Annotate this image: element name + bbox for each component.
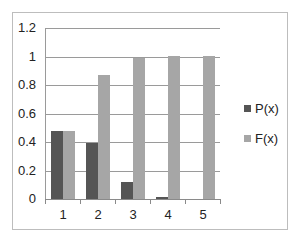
y-tick-label: 0.2: [6, 164, 36, 178]
x-tick-mark: [115, 199, 116, 204]
x-tick-mark: [150, 199, 151, 204]
bar-px-1: [51, 131, 63, 199]
bar-fx-1: [63, 131, 75, 199]
legend-label-fx: F(x): [255, 131, 278, 146]
x-tick-label: 4: [158, 207, 178, 222]
y-tick-label: 0.8: [6, 78, 36, 92]
legend-swatch-fx: [244, 135, 251, 142]
y-tick-label: 1: [6, 50, 36, 64]
bar-fx-4: [168, 56, 180, 199]
x-tick-mark: [80, 199, 81, 204]
legend-label-px: P(x): [255, 101, 279, 116]
legend-swatch-px: [244, 105, 251, 112]
x-tick-mark: [185, 199, 186, 204]
x-tick-mark: [45, 199, 46, 204]
gridline: [45, 28, 220, 29]
bar-px-4: [156, 197, 168, 199]
bar-fx-5: [203, 56, 215, 199]
y-tick-label: 0.6: [6, 107, 36, 121]
legend-item-fx: F(x): [244, 130, 279, 146]
x-tick-label: 1: [53, 207, 73, 222]
x-axis: [45, 199, 220, 200]
x-tick-label: 2: [88, 207, 108, 222]
x-tick-mark: [220, 199, 221, 204]
legend: P(x) F(x): [244, 100, 279, 160]
y-tick-label: 0: [6, 192, 36, 206]
y-tick-label: 1.2: [6, 21, 36, 35]
x-tick-label: 5: [193, 207, 213, 222]
bar-px-3: [121, 182, 133, 199]
bar-px-2: [86, 143, 98, 199]
x-tick-label: 3: [123, 207, 143, 222]
y-tick-label: 0.4: [6, 135, 36, 149]
legend-item-px: P(x): [244, 100, 279, 116]
y-axis: [45, 28, 46, 200]
bar-fx-3: [133, 58, 145, 199]
bar-fx-2: [98, 75, 110, 199]
